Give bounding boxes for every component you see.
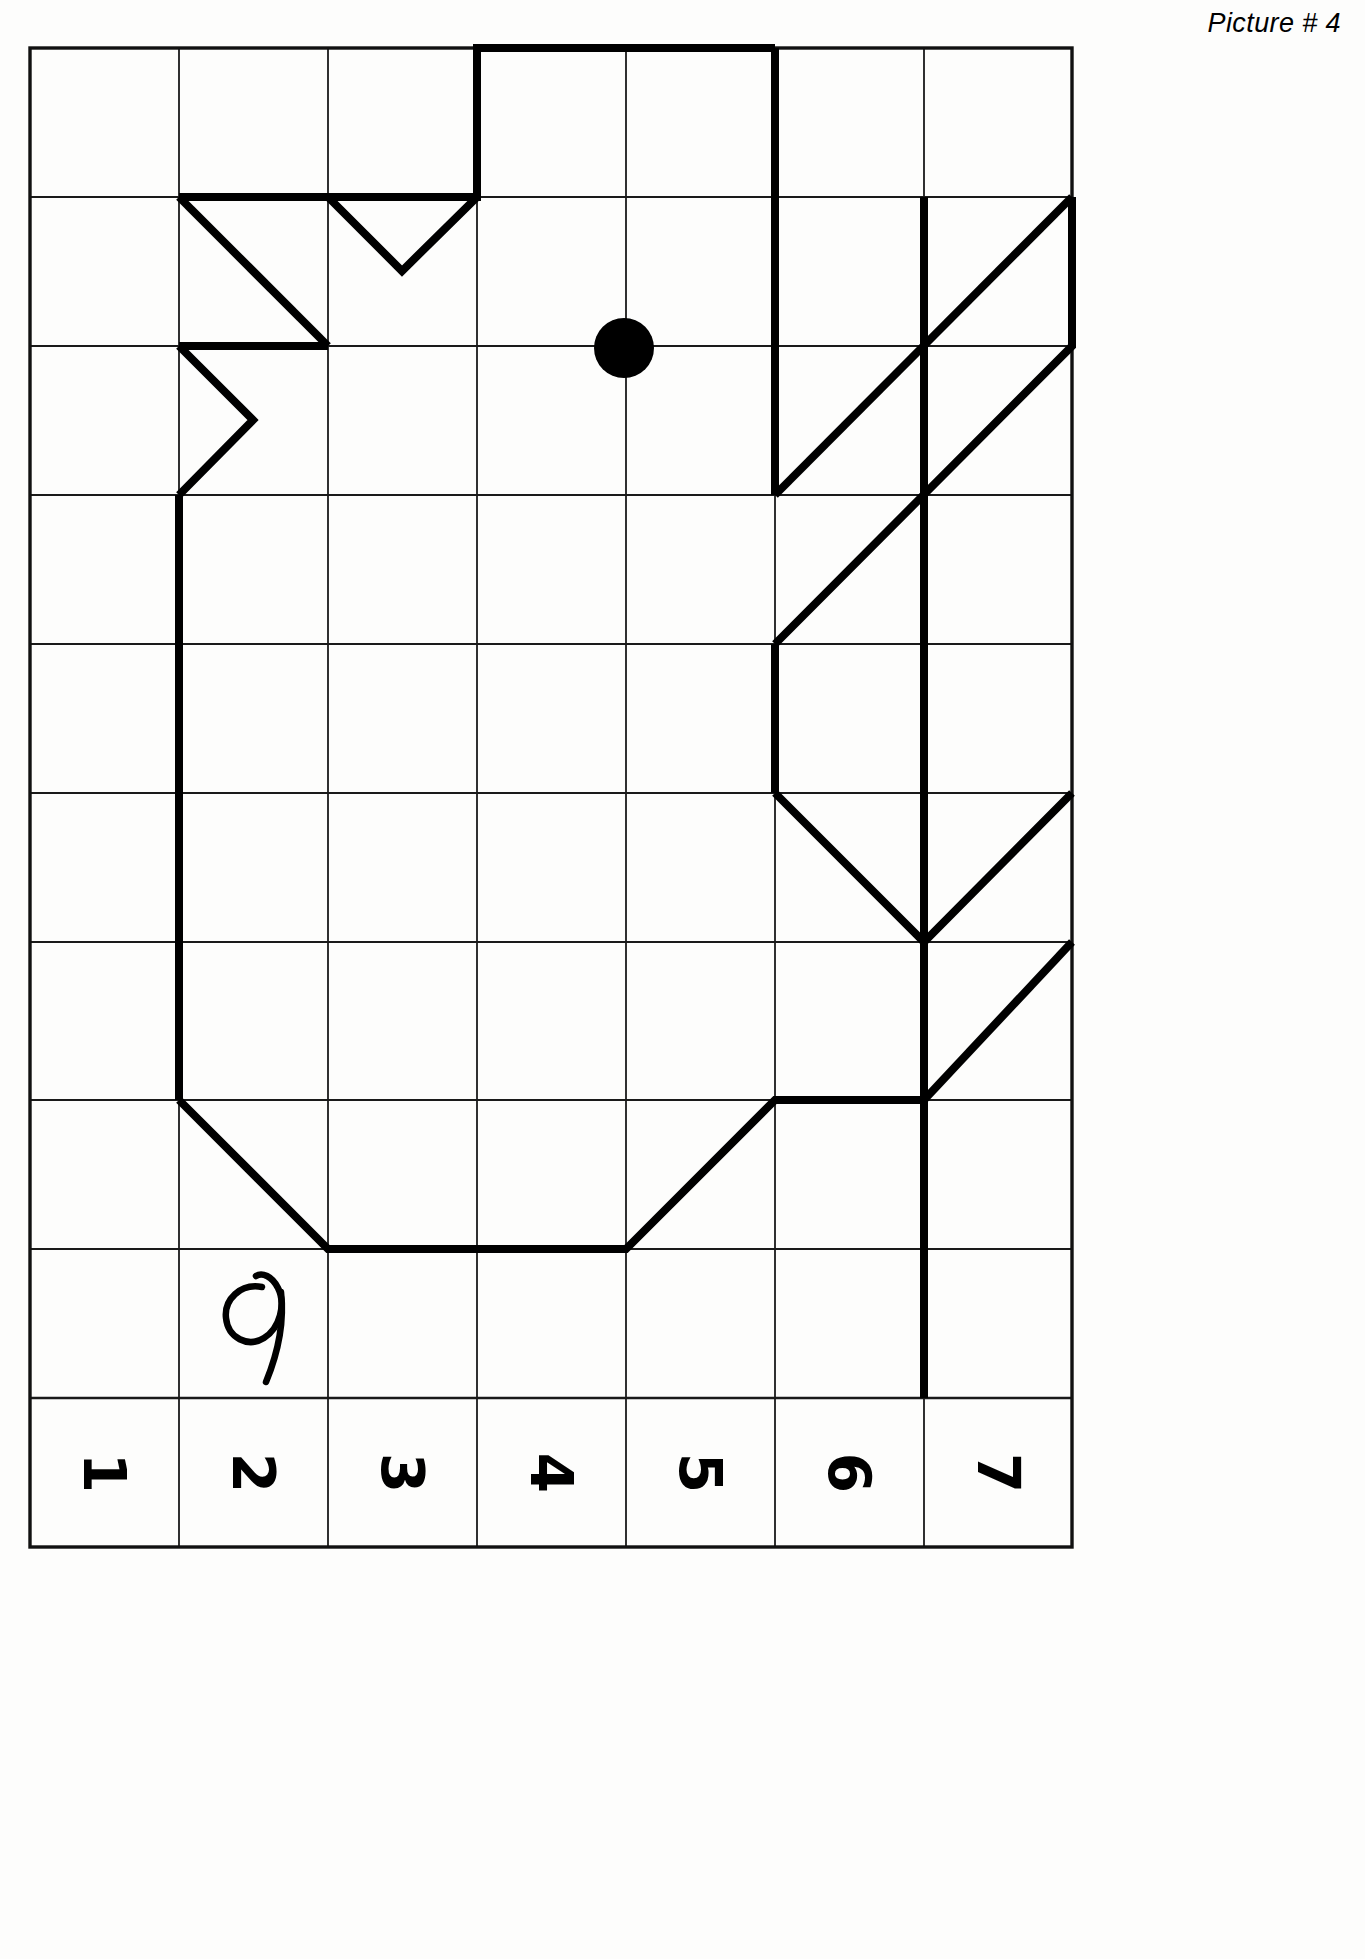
column-label-cell-2: 2 bbox=[179, 1398, 328, 1547]
column-label-cell-1: 1 bbox=[30, 1398, 179, 1547]
column-label-1: 1 bbox=[75, 1452, 133, 1492]
column-label-cell-5: 5 bbox=[626, 1398, 775, 1547]
column-label-5: 5 bbox=[671, 1452, 729, 1492]
figure-left-chevron bbox=[179, 346, 253, 495]
figure-bottom-outline bbox=[179, 1100, 924, 1249]
figure-eye-dot bbox=[594, 318, 654, 378]
column-label-3: 3 bbox=[373, 1452, 431, 1492]
column-label-cell-4: 4 bbox=[477, 1398, 626, 1547]
column-label-cell-3: 3 bbox=[328, 1398, 477, 1547]
grid-lines bbox=[30, 48, 1072, 1547]
handwritten-nine-mark bbox=[226, 1275, 282, 1383]
column-label-7: 7 bbox=[969, 1452, 1027, 1492]
column-label-cell-6: 6 bbox=[775, 1398, 924, 1547]
worksheet-canvas bbox=[0, 0, 1365, 1959]
figure-head-top bbox=[328, 48, 477, 197]
figure-tail-diagonal bbox=[924, 942, 1072, 1100]
column-label-2: 2 bbox=[224, 1452, 282, 1492]
column-label-cell-7: 7 bbox=[924, 1398, 1073, 1547]
figure-left-diag-upper bbox=[179, 197, 328, 346]
figure-head-notch bbox=[328, 48, 775, 271]
worksheet-page: Picture # 4 bbox=[0, 0, 1365, 1959]
column-label-4: 4 bbox=[522, 1452, 580, 1492]
column-label-6: 6 bbox=[820, 1452, 878, 1492]
